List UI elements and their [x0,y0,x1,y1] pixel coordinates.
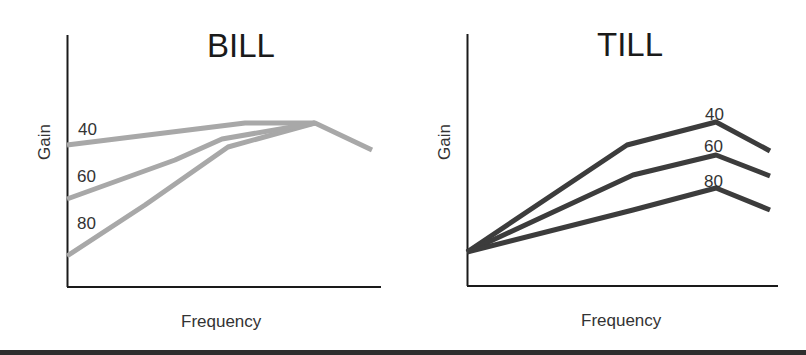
till-line-60 [467,155,770,252]
till-x-label: Frequency [581,311,662,330]
bill-line-80 [67,123,315,256]
bill-title: BILL [207,27,275,64]
bill-y-label: Gain [35,124,54,160]
till-title: TILL [597,26,663,63]
bill-label-60: 60 [77,167,96,186]
bill-line-40 [67,123,372,150]
bill-label-40: 40 [78,120,97,139]
till-y-label: Gain [435,124,454,160]
bill-x-label: Frequency [181,312,262,331]
till-label-60: 60 [704,137,723,156]
figure: BILL Gain Frequency 40 60 80 TILL Gain F… [0,0,806,355]
till-label-80: 80 [704,172,723,191]
bill-chart: BILL Gain Frequency 40 60 80 [35,27,381,331]
till-label-40: 40 [705,105,724,124]
bill-label-80: 80 [77,214,96,233]
till-chart: TILL Gain Frequency 40 60 80 [435,26,778,330]
bottom-border [0,350,806,355]
